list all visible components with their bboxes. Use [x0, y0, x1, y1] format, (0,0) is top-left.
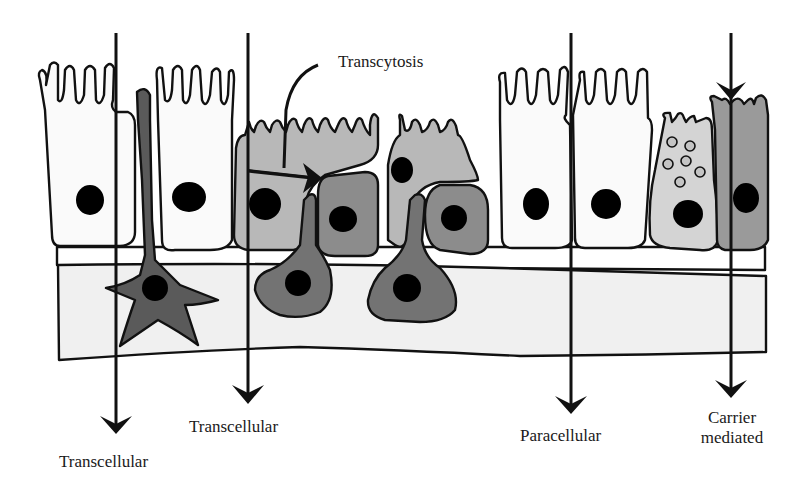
nucleus	[142, 275, 168, 301]
nucleus	[329, 206, 357, 232]
columnar-cell-4	[573, 69, 652, 248]
nucleus	[733, 183, 759, 213]
label-transcytosis: Transcytosis	[338, 52, 423, 72]
immune-cell-right	[425, 185, 488, 254]
carrier-cell	[710, 95, 768, 250]
nucleus	[673, 200, 703, 228]
label-carrier-line2: mediated	[694, 428, 770, 448]
nucleus	[172, 182, 206, 212]
label-transcellular-1: Transcellular	[59, 452, 148, 472]
nucleus	[285, 270, 311, 296]
columnar-cell-1	[39, 63, 135, 247]
nucleus	[76, 185, 104, 215]
columnar-cell-3	[499, 67, 572, 248]
nucleus	[249, 188, 281, 220]
nucleus	[591, 189, 621, 219]
label-carrier-line1: Carrier	[694, 408, 770, 428]
nucleus	[393, 274, 421, 302]
epithelial-transport-diagram	[0, 0, 809, 488]
goblet-cell	[650, 113, 718, 250]
columnar-cell-2	[157, 66, 234, 250]
nucleus	[523, 188, 549, 220]
label-paracellular: Paracellular	[520, 426, 601, 446]
nucleus	[391, 157, 413, 183]
nucleus	[441, 205, 467, 231]
immune-cell-middle	[318, 172, 378, 256]
label-transcellular-2: Transcellular	[189, 417, 278, 437]
label-carrier-mediated: Carrier mediated	[694, 408, 770, 448]
